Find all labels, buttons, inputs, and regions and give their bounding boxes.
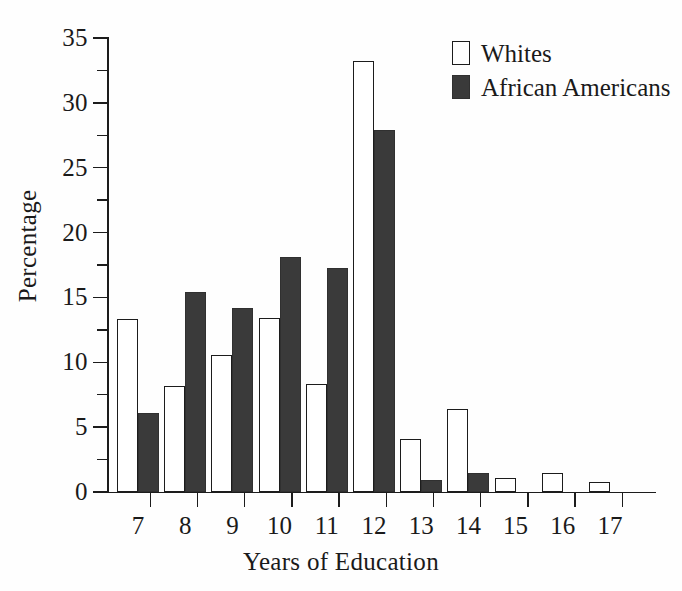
bar-whites-11 — [306, 384, 327, 492]
bar-african-americans-7 — [138, 413, 159, 492]
bar-whites-7 — [117, 319, 138, 492]
x-tick — [433, 493, 435, 507]
bar-whites-13 — [400, 439, 421, 492]
bar-whites-16 — [542, 473, 563, 492]
x-tick-label: 16 — [540, 512, 586, 540]
x-tick-label: 11 — [304, 512, 350, 540]
x-tick — [622, 493, 624, 507]
bar-whites-9 — [211, 355, 232, 492]
y-tick-major — [93, 232, 107, 233]
x-axis-title: Years of Education — [0, 548, 682, 576]
x-tick — [197, 493, 199, 507]
x-tick — [150, 493, 152, 507]
y-tick-major — [93, 37, 107, 38]
y-tick-major — [93, 362, 107, 363]
bar-whites-14 — [447, 409, 468, 492]
legend-item-whites: Whites — [452, 36, 671, 70]
plot-area — [108, 38, 650, 492]
bar-african-americans-9 — [232, 308, 253, 492]
y-tick-minor — [97, 264, 107, 265]
x-tick — [527, 493, 529, 507]
x-tick-label: 10 — [257, 512, 303, 540]
y-tick-minor — [97, 329, 107, 330]
bar-african-americans-14 — [468, 473, 489, 492]
y-tick-major — [93, 102, 107, 103]
y-tick-minor — [97, 135, 107, 136]
bar-african-americans-10 — [280, 257, 301, 492]
x-tick-label: 8 — [162, 512, 208, 540]
y-tick-label: 25 — [44, 155, 88, 180]
y-tick-major — [93, 426, 107, 427]
bar-african-americans-13 — [421, 480, 442, 492]
bar-african-americans-11 — [327, 268, 348, 492]
x-tick — [338, 493, 340, 507]
legend-label: Whites — [481, 41, 552, 66]
y-tick-major — [93, 491, 107, 492]
chart-legend: Whites African Americans — [452, 36, 671, 104]
y-tick-major — [93, 297, 107, 298]
bar-whites-8 — [164, 386, 185, 492]
y-tick-label: 10 — [44, 349, 88, 374]
bar-whites-12 — [353, 61, 374, 492]
y-tick-minor — [97, 70, 107, 71]
y-tick-label: 5 — [44, 414, 88, 439]
bar-whites-10 — [259, 318, 280, 492]
x-tick-label: 9 — [209, 512, 255, 540]
y-tick-minor — [97, 459, 107, 460]
bar-african-americans-8 — [185, 292, 206, 492]
y-tick-minor — [97, 394, 107, 395]
y-tick-label: 0 — [44, 479, 88, 504]
filled-square-swatch-icon — [452, 75, 470, 99]
x-tick — [244, 493, 246, 507]
y-tick-minor — [97, 199, 107, 200]
x-tick-label: 17 — [587, 512, 633, 540]
x-tick-label: 7 — [115, 512, 161, 540]
y-tick-label: 20 — [44, 220, 88, 245]
y-tick-label: 35 — [44, 25, 88, 50]
y-tick-label: 30 — [44, 90, 88, 115]
legend-item-african-americans: African Americans — [452, 70, 671, 104]
y-axis-labels: 05101520253035 — [0, 0, 88, 591]
x-tick-label: 13 — [398, 512, 444, 540]
x-tick-label: 15 — [493, 512, 539, 540]
bar-chart-figure: Percentage 05101520253035 78910111213141… — [0, 0, 682, 591]
x-tick — [386, 493, 388, 507]
y-tick-label: 15 — [44, 284, 88, 309]
y-tick-major — [93, 167, 107, 168]
x-tick — [574, 493, 576, 507]
x-tick-label: 14 — [445, 512, 491, 540]
bar-whites-17 — [589, 482, 610, 492]
open-square-swatch-icon — [452, 41, 470, 65]
x-tick-label: 12 — [351, 512, 397, 540]
bar-african-americans-12 — [374, 130, 395, 492]
x-tick — [291, 493, 293, 507]
legend-label: African Americans — [481, 75, 671, 100]
x-tick — [480, 493, 482, 507]
bar-whites-15 — [495, 478, 516, 492]
